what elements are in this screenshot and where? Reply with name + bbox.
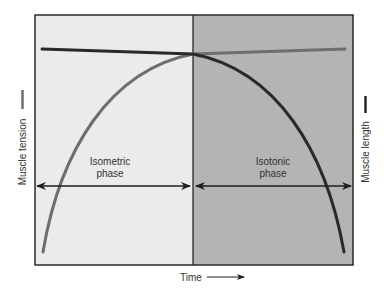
right-axis-label: Muscle length <box>360 121 371 183</box>
muscle-contraction-chart: Isometric phase Isotonic phase Muscle te… <box>0 0 390 291</box>
isometric-label-line1: Isometric <box>90 156 131 167</box>
isotonic-label-line1: Isotonic <box>256 156 290 167</box>
x-axis-label: Time <box>180 272 202 283</box>
left-axis-label: Muscle tension <box>17 119 28 186</box>
isometric-label-line2: phase <box>96 168 124 179</box>
isotonic-label-line2: phase <box>259 168 287 179</box>
